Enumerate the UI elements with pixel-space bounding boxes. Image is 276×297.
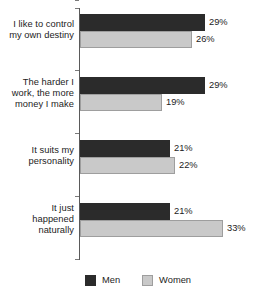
bar-value-men: 21% [174, 205, 193, 217]
bar-value-women: 26% [196, 33, 215, 45]
category-label-line: naturally [0, 225, 74, 236]
axis-tick [75, 133, 79, 134]
axis-tick [75, 196, 79, 197]
bar-women[interactable] [80, 31, 192, 48]
legend-label-women: Women [159, 275, 191, 286]
category-label-line: money I make [0, 99, 74, 110]
bar-value-men: 29% [209, 79, 228, 91]
category-label-line: It suits my [0, 145, 74, 156]
category-label: I like to control my own destiny [0, 19, 74, 41]
bar-men[interactable] [80, 14, 205, 31]
bar-men[interactable] [80, 203, 170, 220]
bar-women[interactable] [80, 157, 175, 174]
category-label: It suits my personality [0, 145, 74, 167]
category-label-line: It just [0, 203, 74, 214]
category-label-line: personality [0, 156, 74, 167]
category-label: The harder I work, the more money I make [0, 77, 74, 111]
men-swatch-icon [85, 275, 96, 286]
plot-area: I like to control my own destiny 29% 26%… [0, 0, 276, 268]
category-label-line: happened [0, 214, 74, 225]
bar-value-women: 19% [166, 96, 185, 108]
category-label-line: work, the more [0, 88, 74, 99]
bar-value-women: 33% [227, 222, 246, 234]
chart-legend: Men Women [0, 270, 276, 290]
bar-value-men: 21% [174, 142, 193, 154]
category-label: It just happened naturally [0, 203, 74, 237]
category-label-line: my own destiny [0, 30, 74, 41]
bar-men[interactable] [80, 77, 205, 94]
bar-women[interactable] [80, 94, 162, 111]
axis-tick [75, 70, 79, 71]
bar-value-men: 29% [209, 16, 228, 28]
legend-item-women[interactable]: Women [142, 275, 191, 286]
bar-women[interactable] [80, 220, 223, 237]
category-label-line: I like to control [0, 19, 74, 30]
axis-tick [75, 8, 79, 9]
horizontal-bar-chart: I like to control my own destiny 29% 26%… [0, 0, 276, 297]
axis-tick [75, 0, 79, 1]
legend-item-men[interactable]: Men [85, 275, 120, 286]
bar-men[interactable] [80, 140, 170, 157]
category-label-line: The harder I [0, 77, 74, 88]
legend-label-men: Men [102, 275, 120, 286]
bar-value-women: 22% [179, 159, 198, 171]
women-swatch-icon [142, 275, 153, 286]
axis-tick [75, 259, 79, 260]
